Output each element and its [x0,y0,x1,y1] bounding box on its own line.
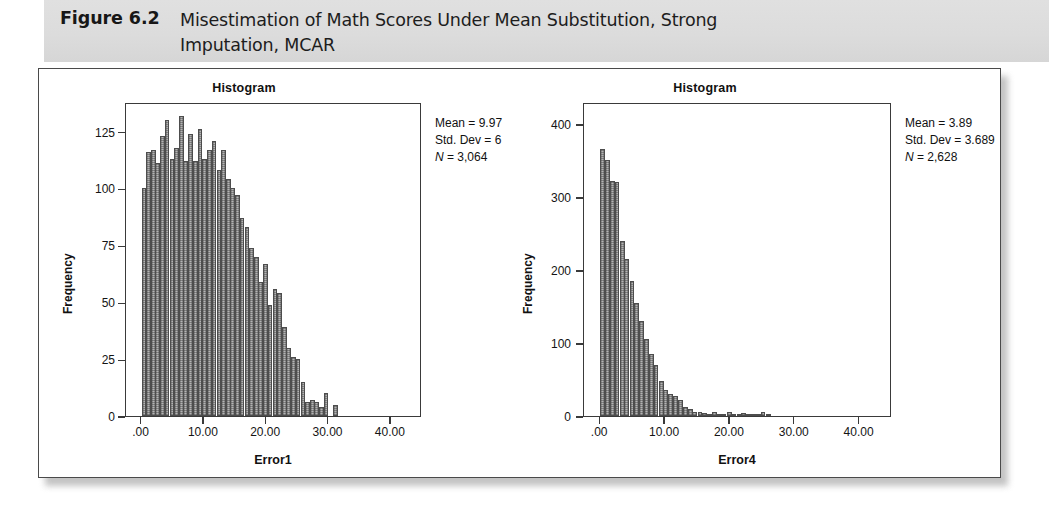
stat-n-left: N = 3,064 [435,149,502,166]
x-axis-label-right: Error4 [583,453,891,467]
stats-annotation-right: Mean = 3.89 Std. Dev = 3.689 N = 2,628 [905,115,995,166]
histogram-bar [146,152,151,416]
x-tick-mark [327,417,328,424]
x-tick-mark [728,417,729,424]
bar-series-left [126,104,420,416]
histogram-bar [654,365,659,416]
stat-sd-left: Std. Dev = 6 [435,132,502,149]
plot-area-right [583,103,891,417]
histogram-bar [305,402,310,416]
charts-panel: Histogram Frequency Error1 0255075100125… [38,68,1001,478]
stat-n-value-left: = 3,064 [444,150,488,164]
y-axis-label-right: Frequency [521,253,535,314]
histogram-bar [240,218,245,416]
stat-n-symbol-right: N [905,150,914,164]
histogram-bar [624,259,629,416]
y-tick-mark [576,270,583,271]
y-tick-mark [118,360,125,361]
histogram-bar [663,390,668,416]
histogram-bar [286,348,291,416]
histogram-bar [692,412,697,416]
y-tick-mark [118,132,125,133]
y-tick-mark [118,189,125,190]
y-tick-label: 300 [527,191,571,205]
x-tick-label: .00 [569,425,629,439]
histogram-bar [212,141,217,416]
histogram-bar [615,182,620,416]
y-tick-label: 100 [527,337,571,351]
y-tick-label: 200 [527,264,571,278]
bar-series-right [584,104,890,416]
y-tick-label: 400 [527,118,571,132]
chart-title-left: Histogram [99,81,389,95]
histogram-bar [202,159,207,416]
histogram-bar [605,160,610,416]
histogram-bar [333,405,338,416]
histogram-bar [644,339,649,416]
histogram-bar [702,413,707,416]
histogram-bar [221,150,226,416]
y-tick-mark [118,246,125,247]
y-tick-label: 0 [527,410,571,424]
figure-page: Figure 6.2 Misestimation of Math Scores … [0,0,1049,517]
x-tick-label: 40.00 [360,425,420,439]
x-tick-label: .00 [111,425,171,439]
histogram-bar [634,303,639,416]
y-tick-mark [576,124,583,125]
histogram-bar [249,248,254,416]
stat-n-symbol-left: N [435,150,444,164]
y-tick-label: 25 [71,353,115,367]
y-tick-mark [576,343,583,344]
histogram-bar [183,161,188,416]
histogram-bar [683,407,688,416]
x-tick-label: 40.00 [829,425,889,439]
x-tick-mark [140,417,141,424]
stat-n-right: N = 2,628 [905,149,995,166]
x-tick-mark [265,417,266,424]
x-tick-mark [389,417,390,424]
y-tick-mark [118,416,125,417]
stat-mean-left: Mean = 9.97 [435,115,502,132]
histogram-bar [165,120,170,416]
histogram-bar [314,402,319,416]
figure-header-band: Figure 6.2 Misestimation of Math Scores … [44,0,1049,62]
y-tick-mark [576,197,583,198]
histogram-bar [761,412,766,416]
stat-n-value-right: = 2,628 [914,150,958,164]
chart-title-right: Histogram [555,81,855,95]
histogram-bar [712,412,717,416]
y-tick-label: 100 [71,182,115,196]
figure-number: Figure 6.2 [60,8,160,28]
histogram-bar [268,305,273,416]
histogram-bar [155,163,160,416]
histogram-bar [722,414,727,416]
x-tick-mark [793,417,794,424]
x-axis-label-left: Error1 [125,453,421,467]
chart-error1: Histogram Frequency Error1 0255075100125… [39,69,521,477]
y-tick-label: 0 [71,410,115,424]
histogram-bar [258,282,263,416]
y-tick-mark [576,416,583,417]
stats-annotation-left: Mean = 9.97 Std. Dev = 6 N = 3,064 [435,115,502,166]
stat-mean-right: Mean = 3.89 [905,115,995,132]
stat-sd-right: Std. Dev = 3.689 [905,132,995,149]
y-tick-label: 125 [71,126,115,140]
histogram-bar [230,188,235,416]
histogram-bar [766,414,771,416]
histogram-bar [731,414,736,416]
chart-error4: Histogram Frequency Error4 0100200300400… [509,69,1002,477]
x-tick-mark [599,417,600,424]
x-tick-label: 20.00 [699,425,759,439]
histogram-bar [193,161,198,416]
histogram-bar [174,148,179,416]
histogram-bar [296,359,301,416]
histogram-bar [277,293,282,416]
y-tick-label: 50 [71,296,115,310]
plot-area-left [125,103,421,417]
histogram-bar [741,413,746,416]
histogram-bar [324,393,329,416]
x-tick-label: 30.00 [764,425,824,439]
histogram-bar [751,414,756,416]
x-tick-label: 20.00 [235,425,295,439]
x-tick-mark [202,417,203,424]
